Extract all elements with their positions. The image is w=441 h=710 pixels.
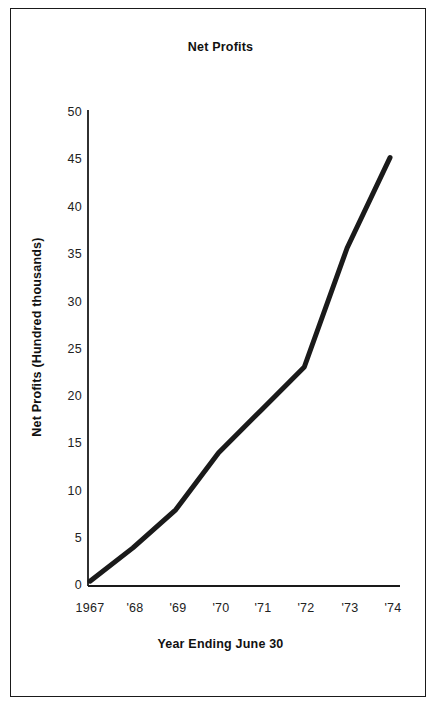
plot-area: 50 45 40 35 30 25 20 15 10 5 0 1967 '68 … — [0, 0, 441, 710]
y-tick-45: 45 — [52, 152, 82, 166]
y-tick-35: 35 — [52, 247, 82, 261]
x-axis-label: Year Ending June 30 — [0, 637, 441, 651]
y-tick-40: 40 — [52, 200, 82, 214]
y-tick-0: 0 — [52, 578, 82, 592]
y-tick-5: 5 — [52, 531, 82, 545]
y-tick-10: 10 — [52, 484, 82, 498]
data-series-line — [90, 158, 390, 582]
y-tick-25: 25 — [52, 342, 82, 356]
y-axis-label: Net Profits (Hundred thousands) — [30, 232, 44, 442]
page-root: Net Profits 50 45 40 35 30 25 20 15 10 5… — [0, 0, 441, 710]
x-tick-74: '74 — [363, 601, 423, 615]
y-tick-30: 30 — [52, 295, 82, 309]
y-tick-50: 50 — [52, 105, 82, 119]
y-tick-15: 15 — [52, 436, 82, 450]
y-tick-20: 20 — [52, 389, 82, 403]
